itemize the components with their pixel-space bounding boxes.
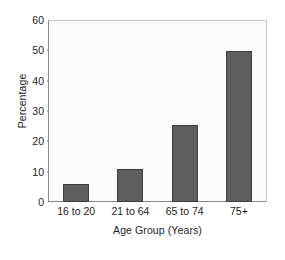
bar [226,51,252,202]
bar-chart-figure: Percentage 0102030405060 16 to 2021 to 6… [0,0,285,260]
y-axis-tick-label: 60 [22,15,44,26]
bar [172,125,198,202]
y-axis-tick-label: 50 [22,45,44,56]
bar [63,184,89,202]
y-axis-tick-label: 20 [22,136,44,147]
y-axis-tick-labels: 0102030405060 [22,20,44,202]
y-axis-tick-label: 10 [22,166,44,177]
x-axis-tick-labels: 16 to 2021 to 6465 to 7475+ [49,205,266,221]
bar [117,169,143,202]
bar-series [49,21,266,202]
y-axis-tick-label: 30 [22,106,44,117]
x-axis-tick-label: 75+ [203,205,275,218]
x-axis-title: Age Group (Years) [48,224,267,236]
y-axis-tick-label: 40 [22,75,44,86]
